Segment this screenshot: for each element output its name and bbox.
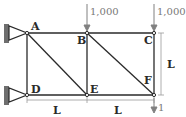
arrowhead-F-icon [151,107,157,113]
dim-label-CF: L [167,58,175,71]
load-label-C: 1,000 [157,6,186,17]
load-label-F: 1 [158,102,164,113]
joint-A [25,31,28,34]
joint-D [25,93,28,96]
joint-E [85,93,88,96]
arrowhead-C-icon [151,25,157,31]
node-label-F: F [144,74,152,87]
truss-svg: A B C D E F 1,000 1,000 1 L L L [0,0,186,117]
node-label-C: C [144,34,153,47]
node-label-E: E [90,83,98,96]
truss-diagram: A B C D E F 1,000 1,000 1 L L L [0,0,186,117]
dim-label-EF: L [114,104,122,117]
node-label-B: B [77,34,86,47]
load-label-B: 1,000 [90,6,119,17]
pin-support-A [4,24,27,43]
loads [84,4,157,113]
arrowhead-B-icon [84,25,90,31]
pin-support-D [4,86,27,105]
dim-label-DE: L [53,104,61,117]
node-label-A: A [30,20,40,33]
joint-F [152,93,155,96]
node-label-D: D [31,83,41,96]
